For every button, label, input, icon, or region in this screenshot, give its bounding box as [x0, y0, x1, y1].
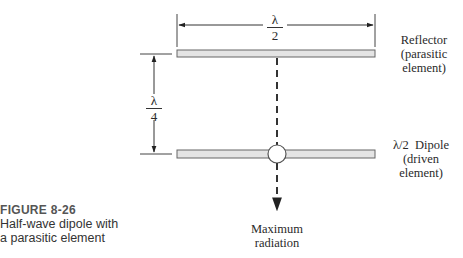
caption-line-1: Half-wave dipole with	[0, 217, 140, 231]
figure-number: FIGURE 8-26	[0, 203, 140, 217]
caption-line-2: a parasitic element	[0, 231, 140, 245]
maximum-radiation-label: Maximum radiation	[237, 222, 317, 250]
half-wavelength-label: λ 2	[267, 13, 283, 42]
reflector-element	[177, 50, 375, 57]
figure-caption: FIGURE 8-26 Half-wave dipole with a para…	[0, 203, 140, 245]
diagram: λ 2 λ 4 Reflector (parasitic element) λ/…	[0, 0, 463, 258]
dipole-label: λ/2 Dipole (driven element)	[378, 138, 463, 180]
reflector-label: Reflector (parasitic element)	[384, 33, 463, 75]
feed-point-circle	[268, 145, 286, 163]
quarter-wavelength-label: λ 4	[146, 94, 162, 123]
